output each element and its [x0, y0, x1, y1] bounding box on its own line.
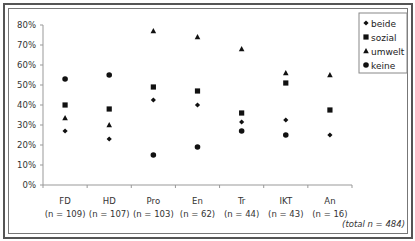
circle-point-keine — [239, 128, 245, 134]
triangle-point-umwelt — [106, 122, 112, 127]
y-tick-label: 30% — [17, 120, 36, 130]
square-point-sozial — [62, 102, 67, 107]
x-category-label: HD — [103, 196, 116, 206]
x-category-n: (n = 109) — [45, 209, 86, 219]
x-category-label: FD — [59, 196, 71, 206]
diamond-point-beide — [327, 132, 332, 137]
x-category-label: En — [192, 196, 203, 206]
x-category-label: IKT — [279, 196, 292, 206]
y-tick-label: 80% — [17, 20, 36, 30]
circle-point-keine — [151, 152, 157, 158]
diamond-point-beide — [195, 102, 200, 107]
square-icon — [363, 34, 368, 39]
x-category-label: Tr — [237, 196, 246, 206]
diamond-point-beide — [151, 97, 156, 102]
x-category-n: (n = 107) — [89, 209, 130, 219]
legend-label-beide: beide — [371, 19, 396, 29]
triangle-point-umwelt — [327, 72, 333, 77]
triangle-point-umwelt — [195, 34, 201, 39]
y-tick-label: 60% — [17, 60, 36, 70]
legend-label-sozial: sozial — [371, 33, 396, 43]
triangle-point-umwelt — [151, 28, 157, 33]
data-points — [62, 28, 332, 158]
diamond-point-beide — [107, 136, 112, 141]
legend: beidesozialumweltkeine — [359, 13, 407, 73]
diamond-point-beide — [62, 128, 67, 133]
y-tick-label: 0% — [23, 180, 37, 190]
x-category-label: Pro — [147, 196, 161, 206]
square-point-sozial — [107, 106, 112, 111]
y-tick-label: 10% — [17, 160, 36, 170]
y-tick-label: 50% — [17, 80, 36, 90]
square-point-sozial — [327, 107, 332, 112]
triangle-point-umwelt — [283, 70, 289, 75]
square-point-sozial — [283, 80, 288, 85]
triangle-point-umwelt — [239, 46, 245, 51]
x-category-label: An — [324, 196, 335, 206]
circle-point-keine — [62, 76, 68, 82]
square-point-sozial — [195, 88, 200, 93]
circle-point-keine — [195, 144, 201, 150]
diamond-point-beide — [283, 117, 288, 122]
scatter-chart: 0%10%20%30%40%50%60%70%80% FD(n = 109)HD… — [0, 0, 415, 241]
x-category-n: (n = 16) — [312, 209, 347, 219]
x-category-n: (n = 44) — [224, 209, 259, 219]
legend-label-keine: keine — [371, 61, 396, 71]
total-n-note: (total n = 484) — [342, 219, 405, 229]
circle-point-keine — [106, 72, 112, 78]
y-tick-label: 20% — [17, 140, 36, 150]
triangle-point-umwelt — [62, 115, 68, 120]
square-point-sozial — [239, 110, 244, 115]
x-category-n: (n = 43) — [268, 209, 303, 219]
y-tick-label: 70% — [17, 40, 36, 50]
circle-point-keine — [283, 132, 289, 138]
x-category-n: (n = 62) — [180, 209, 215, 219]
circle-icon — [363, 62, 369, 68]
x-category-n: (n = 103) — [133, 209, 174, 219]
y-tick-label: 40% — [17, 100, 36, 110]
diamond-point-beide — [239, 119, 244, 124]
legend-label-umwelt: umwelt — [371, 47, 405, 57]
square-point-sozial — [151, 84, 156, 89]
x-axis: FD(n = 109)HD(n = 107)Pro(n = 103)En(n =… — [43, 185, 352, 219]
y-axis: 0%10%20%30%40%50%60%70%80% — [17, 20, 43, 190]
